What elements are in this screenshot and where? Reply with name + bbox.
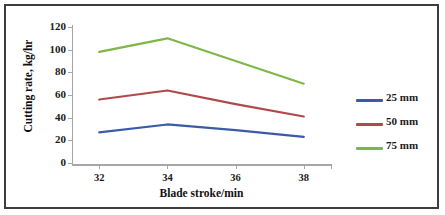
x-axis-title: Blade stroke/min — [72, 187, 331, 199]
chart-legend: 25 mm 50 mm 75 mm — [356, 90, 434, 162]
series-line-50-mm — [99, 90, 303, 116]
chart-area: Cutting rate, kg/hr 020406080100120 3234… — [6, 6, 437, 207]
x-axis-line — [72, 164, 331, 166]
legend-item-1[interactable]: 50 mm — [356, 114, 434, 138]
x-tick-label-38: 38 — [289, 172, 319, 183]
chart-frame: Cutting rate, kg/hr 020406080100120 3234… — [4, 4, 439, 209]
legend-swatch-25mm — [356, 99, 383, 102]
legend-item-0[interactable]: 25 mm — [356, 90, 434, 114]
x-tick-34 — [167, 164, 168, 169]
legend-label-50mm: 50 mm — [386, 115, 418, 127]
x-tick-label-32: 32 — [84, 172, 114, 183]
x-tick-38 — [304, 164, 305, 169]
x-axis-end-tick — [331, 164, 332, 169]
series-line-25-mm — [99, 124, 303, 136]
x-tick-label-36: 36 — [221, 172, 251, 183]
legend-item-2[interactable]: 75 mm — [356, 138, 434, 162]
x-tick-label-34: 34 — [152, 172, 182, 183]
x-tick-32 — [99, 164, 100, 169]
legend-label-75mm: 75 mm — [386, 139, 418, 151]
legend-swatch-75mm — [356, 147, 383, 150]
legend-label-25mm: 25 mm — [386, 91, 418, 103]
series-line-75-mm — [99, 38, 303, 83]
x-tick-36 — [236, 164, 237, 169]
legend-swatch-50mm — [356, 123, 383, 126]
